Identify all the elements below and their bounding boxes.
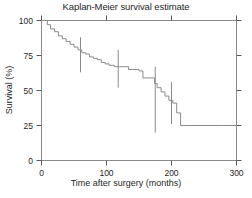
- chart-figure: Kaplan-Meier survival estimate: [0, 0, 252, 198]
- survival-step-curve: [42, 21, 237, 143]
- x-tick-label: 100: [99, 168, 113, 178]
- y-tick-label: 25: [24, 121, 34, 131]
- y-tick-label: 0: [28, 156, 33, 166]
- x-tick-label: 0: [39, 168, 44, 178]
- y-tick-label: 75: [24, 51, 34, 61]
- x-axis-ticks: [42, 16, 237, 166]
- confidence-interval-bars: [81, 37, 172, 132]
- y-tick-label: 100: [19, 16, 33, 26]
- kaplan-meier-plot: 0 100 200 300 0 25 50 75 100 Survival (%…: [0, 0, 252, 198]
- x-tick-labels: 0 100 200 300: [39, 168, 244, 178]
- x-axis-title: Time after surgery (months): [0, 178, 252, 188]
- y-axis-title: Survival (%): [4, 66, 14, 115]
- y-tick-label: 50: [24, 86, 34, 96]
- plot-frame: [42, 21, 237, 161]
- x-tick-label: 200: [164, 168, 178, 178]
- plot-border: [42, 21, 237, 161]
- x-tick-label: 300: [229, 168, 243, 178]
- y-tick-labels: 0 25 50 75 100: [19, 16, 33, 166]
